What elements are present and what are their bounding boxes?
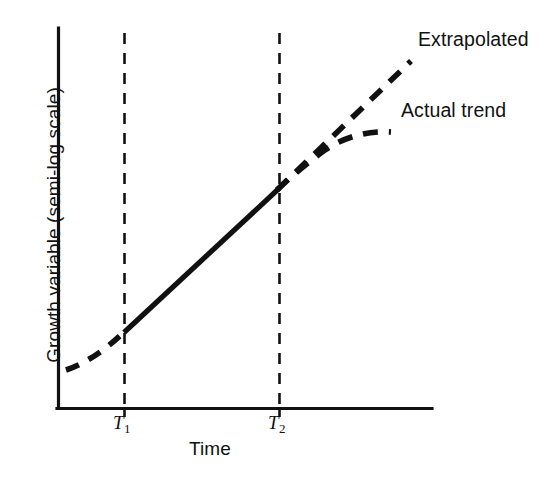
chart-figure: Growth variable (semi-log scale) Time T1… (0, 0, 546, 483)
y-axis-title: Growth variable (semi-log scale) (43, 75, 65, 375)
tick-label-t2-subscript: 2 (279, 421, 286, 436)
tick-label-t1-subscript: 1 (124, 421, 131, 436)
series-label-actual-trend: Actual trend (401, 99, 506, 122)
series-label-extrapolated: Extrapolated (418, 28, 529, 51)
tick-label-t2: T2 (268, 412, 286, 437)
series-early-period (66, 332, 124, 370)
tick-label-t1: T1 (113, 412, 131, 437)
series-actual-trend (277, 132, 391, 190)
series-observed-trend (124, 188, 280, 333)
chart-plot-area (0, 0, 546, 483)
tick-label-t2-base: T (268, 412, 279, 433)
x-axis-title: Time (160, 438, 260, 460)
tick-label-t1-base: T (113, 412, 124, 433)
